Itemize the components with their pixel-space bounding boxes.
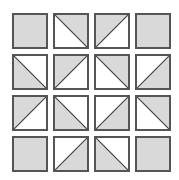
half-square-triangle-icon — [94, 136, 130, 172]
solid-square-icon — [135, 13, 171, 49]
grid-cell-r3-c2 — [53, 95, 89, 131]
grid-cell-r1-c2 — [53, 13, 89, 49]
half-square-triangle-icon — [53, 136, 89, 172]
half-square-triangle-icon — [94, 54, 130, 90]
quilt-grid — [0, 0, 179, 180]
grid-cell-r2-c4 — [135, 54, 171, 90]
half-square-triangle-icon — [53, 95, 89, 131]
grid-cell-r4-c2 — [53, 136, 89, 172]
half-square-triangle-icon — [94, 95, 130, 131]
half-square-triangle-icon — [12, 54, 48, 90]
solid-square-icon — [12, 136, 48, 172]
grid-cell-r4-c1 — [12, 136, 48, 172]
grid-cell-r2-c1 — [12, 54, 48, 90]
grid-cell-r3-c3 — [94, 95, 130, 131]
half-square-triangle-icon — [135, 95, 171, 131]
half-square-triangle-icon — [53, 13, 89, 49]
grid-cell-r1-c1 — [12, 13, 48, 49]
grid-cell-r4-c3 — [94, 136, 130, 172]
grid-cell-r2-c2 — [53, 54, 89, 90]
grid-cell-r1-c4 — [135, 13, 171, 49]
solid-square-icon — [135, 136, 171, 172]
solid-square-icon — [12, 13, 48, 49]
half-square-triangle-icon — [12, 95, 48, 131]
grid-cell-r3-c4 — [135, 95, 171, 131]
grid-cell-r1-c3 — [94, 13, 130, 49]
grid-cell-r3-c1 — [12, 95, 48, 131]
half-square-triangle-icon — [94, 13, 130, 49]
grid-cell-r4-c4 — [135, 136, 171, 172]
half-square-triangle-icon — [53, 54, 89, 90]
half-square-triangle-icon — [135, 54, 171, 90]
grid-cell-r2-c3 — [94, 54, 130, 90]
